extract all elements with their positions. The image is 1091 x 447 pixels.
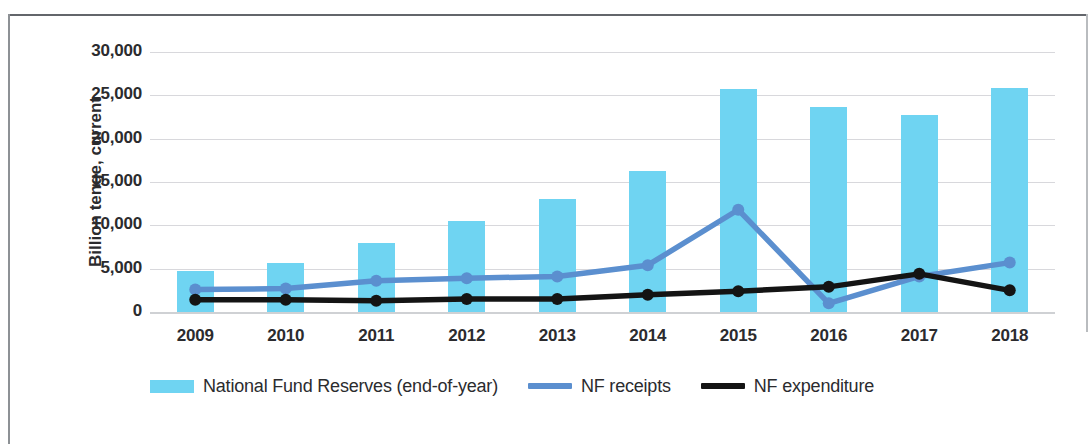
legend-label-2: NF expenditure [754,376,874,397]
y-axis-tick-30000: 30,000 [22,41,142,61]
legend-item-1[interactable]: NF receipts [528,376,671,397]
y-axis-tick-20000: 20,000 [22,128,142,148]
legend-label-1: NF receipts [581,376,671,397]
y-axis-tick-15000: 15,000 [22,171,142,191]
x-axis-tick-labels: 2009201020112012201320142015201620172018 [150,0,1055,360]
x-axis-tick-2017: 2017 [874,326,964,346]
legend-item-0[interactable]: National Fund Reserves (end-of-year) [150,376,498,397]
chart-legend: National Fund Reserves (end-of-year)NF r… [150,372,1010,400]
x-axis-tick-2013: 2013 [512,326,602,346]
x-axis-tick-2016: 2016 [784,326,874,346]
x-axis-tick-2015: 2015 [693,326,783,346]
legend-line-swatch-icon [528,383,572,389]
legend-line-swatch-icon [701,383,745,389]
x-axis-tick-2009: 2009 [150,326,240,346]
chart-figure: Billion tenge, current 05,00010,00015,00… [0,0,1091,447]
frame-right-rule [1086,14,1088,332]
y-axis-tick-10000: 10,000 [22,214,142,234]
y-axis-tick-5000: 5,000 [22,258,142,278]
x-axis-tick-2012: 2012 [422,326,512,346]
x-axis-tick-2018: 2018 [965,326,1055,346]
x-axis-tick-2011: 2011 [331,326,421,346]
y-axis-tick-0: 0 [22,301,142,321]
frame-left-rule [8,14,10,444]
x-axis-tick-2014: 2014 [603,326,693,346]
legend-item-2[interactable]: NF expenditure [701,376,874,397]
y-axis-tick-labels: 05,00010,00015,00020,00025,00030,000 [14,52,142,312]
legend-label-0: National Fund Reserves (end-of-year) [203,376,498,397]
y-axis-tick-25000: 25,000 [22,84,142,104]
legend-bar-swatch-icon [150,380,194,393]
x-axis-tick-2010: 2010 [241,326,331,346]
